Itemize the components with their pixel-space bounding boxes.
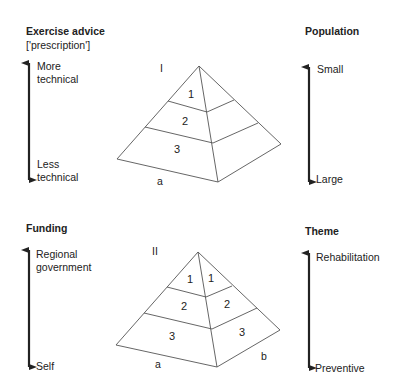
pyramid-two-side-tier-2: 2: [224, 298, 230, 311]
population-small-label: Small: [317, 63, 343, 76]
pyramid-one: [117, 66, 281, 182]
pyramid-one-tier-1: 1: [188, 88, 194, 101]
pyramid-two-side-tier-1: 1: [208, 272, 214, 285]
pyramid-one-roman: I: [160, 62, 163, 75]
pyramid-two: [116, 252, 280, 367]
pyramid-one-tier-3: 3: [174, 143, 180, 156]
pyramid-two-front-tier-1: 1: [187, 273, 193, 286]
exercise-advice-title: Exercise advice: [26, 25, 105, 38]
regional-government-label-1: Regional: [36, 248, 77, 261]
pyramid-one-tier-2: 2: [182, 115, 188, 128]
preventive-label: Preventive: [315, 362, 365, 375]
more-technical-label-2: technical: [37, 73, 78, 86]
theme-title: Theme: [305, 225, 339, 238]
population-title: Population: [305, 25, 359, 38]
self-label: Self: [36, 360, 54, 373]
pyramid-two-side-tier-3: 3: [239, 326, 245, 339]
population-large-label: Large: [316, 173, 343, 186]
regional-government-label-2: government: [36, 261, 91, 274]
less-technical-label-1: Less: [37, 158, 59, 171]
diagram-canvas: [0, 0, 405, 391]
pyramid-two-roman: II: [152, 245, 158, 258]
pyramid-two-side-b: b: [261, 350, 267, 363]
pyramid-two-side-a: a: [155, 358, 161, 371]
more-technical-label-1: More: [37, 60, 61, 73]
exercise-advice-subtitle: ['prescription']: [26, 39, 90, 52]
less-technical-label-2: technical: [37, 171, 78, 184]
pyramid-two-front-tier-3: 3: [169, 330, 175, 343]
rehabilitation-label: Rehabilitation: [316, 251, 380, 264]
pyramid-two-front-tier-2: 2: [181, 300, 187, 313]
pyramid-one-side-a: a: [157, 175, 163, 188]
funding-title: Funding: [26, 222, 67, 235]
